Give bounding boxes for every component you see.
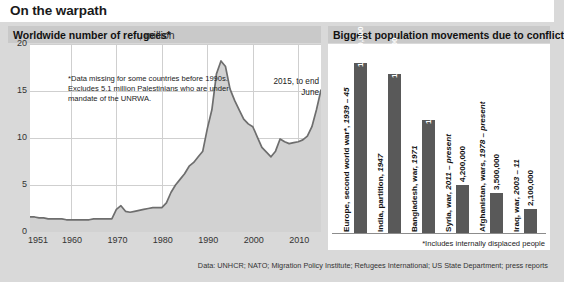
bar [456, 185, 469, 233]
source-line: Data: UNHCR; NATO; Migration Policy Inst… [198, 261, 548, 270]
title-bar: On the warpath [0, 0, 554, 22]
left-chart-panel: Worldwide number of refugees* , million … [8, 26, 321, 250]
right-chart-panel: Biggest population movements due to conf… [328, 26, 550, 250]
movements-plot-area: Europe, second world war*, 1939 – 4515,0… [328, 44, 550, 250]
bar-item: Europe, second world war*, 1939 – 4515,0… [340, 63, 370, 233]
y-tick-label: 10 [8, 132, 27, 142]
bar-value-label: 15,000,000 [356, 26, 365, 67]
bar [490, 193, 503, 233]
bar-category-label: Europe, second world war*, 1939 – 45 [342, 88, 351, 232]
x-tick-label: 1951 [28, 235, 52, 245]
y-tick-label: 20 [8, 38, 27, 48]
x-tick-label: 1980 [151, 235, 175, 245]
x-tick-label: 2000 [242, 235, 266, 245]
bar [354, 63, 367, 233]
bar-item: Bangladesh, war, 197110,000,000 [408, 63, 438, 233]
x-tick-label: 2010 [287, 235, 311, 245]
refugees-area-chart [30, 44, 321, 232]
bar-value-label: 4,200,000 [458, 146, 467, 182]
left-panel-header: Worldwide number of refugees* , million [8, 26, 321, 43]
bar-item: Syria, war, 2011 – present4,200,000 [442, 63, 472, 233]
right-panel-title: Biggest population movements due to conf… [333, 29, 564, 41]
chart-footnote: *Data missing for some countries before … [68, 74, 238, 104]
x-tick-label: 1970 [105, 235, 129, 245]
bar-category-label: Bangladesh, war, 1971 [410, 146, 419, 232]
bar [524, 209, 537, 233]
bar-baseline [332, 233, 546, 234]
page-title: On the warpath [10, 3, 107, 18]
bar-category-label: India, partition, 1947 [376, 154, 385, 232]
bar-item: Afghanistan, wars, 1978 – present3,500,0… [476, 63, 506, 233]
bar-value-label: 10,000,000 [424, 83, 433, 124]
bar-category-label: Iraq, war, 2003 – 11 [512, 159, 521, 232]
bar-item: India, partition, 194714,000,000 [374, 63, 404, 233]
annotation-2015: 2015, to end June [273, 76, 319, 98]
y-tick-label: 0 [8, 226, 27, 236]
bar-category-label: Afghanistan, wars, 1978 – present [478, 102, 487, 232]
bar-value-label: 14,000,000 [390, 37, 399, 78]
y-tick-label: 5 [8, 179, 27, 189]
x-tick-label: 1960 [60, 235, 84, 245]
bar-category-label: Syria, war, 2011 – present [444, 134, 453, 232]
bar-item: Iraq, war, 2003 – 112,100,000 [510, 63, 540, 233]
left-panel-subtitle: , million [139, 29, 175, 41]
x-tick-label: 1990 [196, 235, 220, 245]
bar-value-label: 2,100,000 [526, 170, 535, 206]
refugees-plot-area: *Data missing for some countries before … [30, 44, 321, 232]
bar [388, 74, 401, 233]
y-tick-label: 15 [8, 85, 27, 95]
bar [422, 120, 435, 233]
bar-value-label: 3,500,000 [492, 154, 501, 190]
right-panel-footnote: *Includes internally displaced people [422, 239, 545, 248]
